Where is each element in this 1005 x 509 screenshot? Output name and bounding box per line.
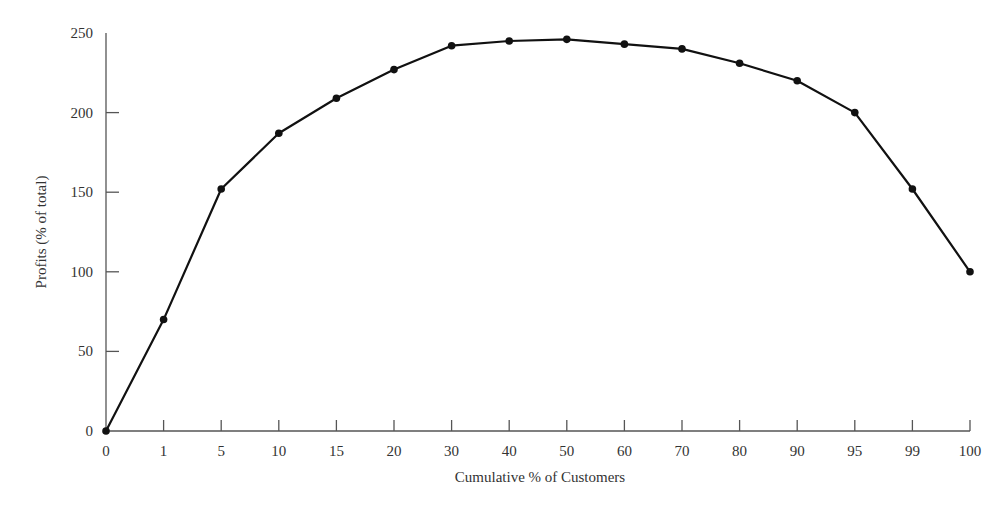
x-tick-label: 20 xyxy=(387,443,402,459)
x-tick-label: 40 xyxy=(502,443,517,459)
x-tick-label: 80 xyxy=(732,443,747,459)
y-tick-label: 50 xyxy=(78,343,93,359)
data-point-marker xyxy=(390,66,398,74)
x-tick-label: 60 xyxy=(617,443,632,459)
x-tick-label: 5 xyxy=(217,443,225,459)
x-tick-label: 99 xyxy=(905,443,920,459)
x-axis-title: Cumulative % of Customers xyxy=(455,469,626,485)
y-axis-title: Profits (% of total) xyxy=(33,176,50,289)
y-tick-label: 200 xyxy=(71,105,94,121)
x-tick-label: 10 xyxy=(271,443,286,459)
y-tick-label: 0 xyxy=(86,423,94,439)
x-tick-label: 50 xyxy=(559,443,574,459)
data-point-marker xyxy=(217,185,225,193)
y-tick-label: 100 xyxy=(71,264,94,280)
data-point-marker xyxy=(621,40,629,48)
data-point-marker xyxy=(966,268,974,276)
profit-curve-chart: 050100150200250 015101520304050607080909… xyxy=(0,0,1005,509)
data-point-marker xyxy=(678,45,686,53)
y-axis: 050100150200250 xyxy=(71,25,120,439)
data-point-marker xyxy=(448,42,456,50)
data-point-marker xyxy=(102,427,110,435)
data-point-marker xyxy=(505,37,513,45)
data-point-marker xyxy=(333,94,341,102)
data-point-marker xyxy=(793,77,801,85)
x-tick-label: 1 xyxy=(160,443,168,459)
data-point-marker xyxy=(563,36,571,44)
x-tick-label: 15 xyxy=(329,443,344,459)
x-tick-label: 95 xyxy=(847,443,862,459)
y-tick-label: 250 xyxy=(71,25,94,41)
series-line xyxy=(106,39,970,431)
x-tick-label: 70 xyxy=(675,443,690,459)
y-tick-label: 150 xyxy=(71,184,94,200)
data-point-marker xyxy=(275,129,283,137)
data-series xyxy=(102,36,974,435)
data-point-marker xyxy=(736,59,744,67)
x-tick-label: 30 xyxy=(444,443,459,459)
data-point-marker xyxy=(160,316,168,324)
x-tick-label: 90 xyxy=(790,443,805,459)
data-point-marker xyxy=(909,185,917,193)
x-tick-label: 100 xyxy=(959,443,982,459)
data-point-marker xyxy=(851,109,859,117)
x-tick-label: 0 xyxy=(102,443,110,459)
x-axis: 015101520304050607080909599100 xyxy=(102,420,981,459)
